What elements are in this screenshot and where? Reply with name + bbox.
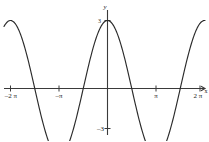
x-axis-label: x [205,88,208,94]
function-graph-figure: y x –2 π –π π 2 π 3 –3 [0,0,209,141]
plot-canvas: y x –2 π –π π 2 π 3 –3 [0,0,209,141]
y-tick-label-3: 3 [98,18,101,24]
x-tick-label-neg-pi: –π [54,92,63,100]
y-axis-label: y [102,3,107,11]
x-tick-label-pi: π [154,92,158,100]
cosine-curve [4,21,205,142]
x-tick-label-neg-2pi: –2 π [4,92,18,100]
x-tick-label-2pi: 2 π [194,92,203,100]
y-tick-label-neg-3: –3 [96,125,105,133]
